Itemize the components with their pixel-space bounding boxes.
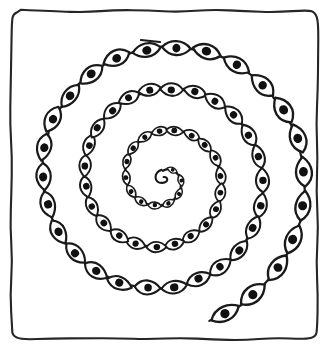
artwork-canvas: [0, 0, 328, 351]
eye-pupil: [154, 244, 161, 250]
spiral-of-eyes-drawing: [0, 0, 328, 351]
eye-motif: [146, 242, 166, 252]
